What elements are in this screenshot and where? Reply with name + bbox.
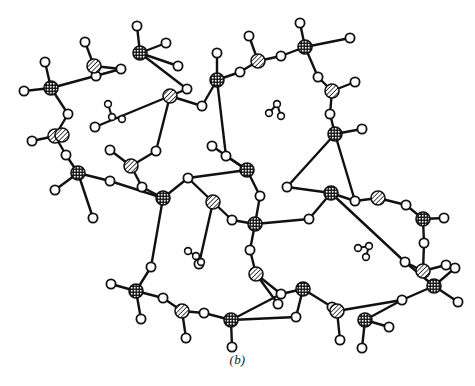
oxygen-atom: [173, 61, 182, 70]
oxygen-atom: [197, 101, 206, 110]
t-atom-diagonal: [124, 159, 138, 173]
t-atom-crosshatched: [296, 282, 310, 296]
t-atom-crosshatched: [240, 163, 254, 177]
guest-molecule: [355, 243, 373, 261]
t-atom-crosshatched: [210, 73, 224, 87]
oxygen-atom: [245, 245, 254, 254]
oxygen-atom: [419, 238, 428, 247]
terminal-oxygen-atom: [90, 122, 99, 131]
t-atom-crosshatched: [224, 313, 238, 327]
terminal-oxygen-atom: [450, 263, 459, 272]
t-atom-crosshatched: [298, 40, 312, 54]
atom-bond: [217, 80, 226, 156]
guest-atom: [105, 101, 112, 108]
guest-atom: [266, 110, 273, 117]
t-atom-diagonal: [251, 54, 265, 68]
guest-atom: [355, 245, 362, 252]
atom-bond: [231, 317, 296, 320]
terminal-oxygen-atom: [453, 297, 462, 306]
t-atom-crosshatched: [427, 279, 441, 293]
terminal-oxygen-atom: [105, 145, 114, 154]
oxygen-atom: [61, 150, 70, 159]
t-atom-diagonal: [55, 128, 69, 142]
oxygen-atom: [282, 182, 291, 191]
terminal-oxygen-atom: [80, 37, 89, 46]
t-atom-diagonal: [87, 59, 101, 73]
terminal-oxygen-atom: [345, 33, 354, 42]
oxygen-atom: [235, 67, 244, 76]
oxygen-atom: [221, 151, 230, 160]
t-atom-diagonal: [330, 304, 344, 318]
terminal-oxygen-atom: [439, 213, 448, 222]
t-atom-crosshatched: [328, 127, 342, 141]
atom-bond: [110, 181, 163, 198]
terminal-oxygen-atom: [244, 31, 253, 40]
oxygen-atom: [151, 146, 160, 155]
oxygen-atom: [227, 215, 236, 224]
guest-atom: [119, 116, 126, 123]
terminal-oxygen-atom: [295, 18, 304, 27]
t-atom-crosshatched: [44, 81, 58, 95]
oxygen-atom: [350, 196, 359, 205]
guest-atom: [198, 259, 205, 266]
guest-atom: [185, 248, 192, 255]
oxygen-atom: [146, 262, 155, 271]
guest-atom: [109, 114, 116, 121]
t-atom-crosshatched: [324, 186, 338, 200]
t-atom-diagonal: [206, 195, 220, 209]
oxygen-atom-layer: [61, 51, 428, 317]
terminal-oxygen-atom: [335, 335, 344, 344]
terminal-oxygen-atom: [227, 342, 236, 351]
atom-bond: [188, 170, 247, 178]
oxygen-atom: [400, 257, 409, 266]
terminal-oxygen-atom: [19, 86, 28, 95]
t-atom-crosshatched: [129, 284, 143, 298]
terminal-oxygen-atom: [273, 299, 282, 308]
terminal-oxygen-atom: [441, 260, 450, 269]
guest-atom: [278, 113, 285, 120]
oxygen-atom: [63, 109, 72, 118]
oxygen-atom: [313, 72, 322, 81]
terminal-oxygen-atom: [27, 136, 36, 145]
terminal-oxygen-atom: [207, 141, 216, 150]
oxygen-atom: [397, 295, 406, 304]
terminal-oxygen-atom: [132, 21, 141, 30]
terminal-oxygen-atom: [357, 124, 366, 133]
terminal-oxygen-atom: [40, 57, 49, 66]
t-atom-crosshatched: [248, 217, 262, 231]
oxygen-atom: [276, 289, 285, 298]
oxygen-atom: [158, 293, 167, 302]
crystal-structure-diagram: [0, 0, 475, 386]
atom-bond: [287, 134, 335, 187]
terminal-oxygen-atom: [161, 38, 170, 47]
terminal-oxygen-atom: [384, 322, 393, 331]
t-atom-crosshatched: [156, 191, 170, 205]
t-atom-layer: [44, 40, 441, 327]
guest-atom: [366, 243, 373, 250]
guest-atom: [363, 254, 370, 261]
atom-bond: [151, 198, 163, 267]
t-atom-diagonal: [325, 84, 339, 98]
t-atom-diagonal: [175, 304, 189, 318]
oxygen-atom: [105, 176, 114, 185]
t-atom-crosshatched: [133, 46, 147, 60]
terminal-oxygen-atom: [88, 213, 97, 222]
t-atom-diagonal: [371, 191, 385, 205]
figure-caption: (b): [0, 352, 475, 368]
atom-bond: [51, 69, 121, 88]
terminal-oxygen-atom: [106, 279, 115, 288]
t-atom-crosshatched: [358, 313, 372, 327]
oxygen-atom: [182, 84, 191, 93]
terminal-oxygen-atom: [212, 48, 221, 57]
oxygen-atom: [199, 308, 208, 317]
guest-atom: [274, 101, 281, 108]
terminal-oxygen-atom: [291, 312, 300, 321]
terminal-oxygen-atom: [181, 333, 190, 342]
oxygen-atom: [401, 200, 410, 209]
guest-molecule: [266, 101, 285, 120]
guest-molecule: [105, 101, 126, 123]
t-atom-crosshatched: [416, 212, 430, 226]
t-atom-diagonal: [163, 89, 177, 103]
oxygen-atom: [137, 182, 146, 191]
figure-root: (b): [0, 0, 475, 386]
